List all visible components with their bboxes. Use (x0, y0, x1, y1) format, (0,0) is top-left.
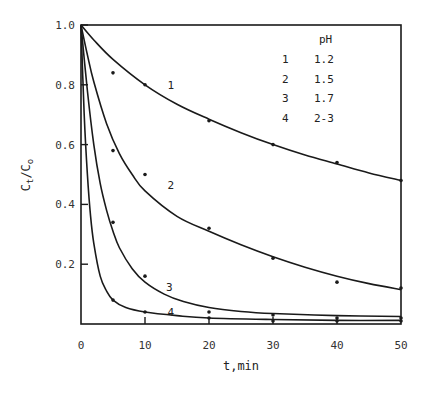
x-tick-label: 40 (330, 339, 343, 352)
data-point (207, 316, 211, 320)
series-curve-2 (81, 25, 401, 290)
data-point (335, 161, 339, 165)
legend-ph-value: 2-3 (314, 112, 334, 125)
data-point (111, 149, 115, 153)
curve-labels: 1234 (166, 79, 174, 319)
data-point (207, 310, 211, 314)
legend: pH 11.221.531.742-3 (282, 33, 334, 125)
legend-ph-value: 1.5 (314, 73, 334, 86)
legend-header: pH (319, 33, 332, 46)
x-axis-ticks: 01020304050 (78, 317, 408, 352)
curve-label-3: 3 (166, 281, 173, 294)
data-point (271, 319, 275, 323)
data-point (111, 71, 115, 75)
data-point (143, 310, 147, 314)
data-point (335, 280, 339, 284)
y-axis-title: Ct/Co (19, 159, 35, 192)
data-point (143, 274, 147, 278)
y-tick-label: 0.8 (55, 79, 75, 92)
data-point (399, 179, 403, 183)
data-point (399, 286, 403, 290)
series-curves (81, 25, 401, 320)
y-tick-label: 0.2 (55, 258, 75, 271)
x-tick-label: 0 (78, 339, 85, 352)
series-curve-1 (81, 25, 401, 180)
x-axis-title: t,min (223, 359, 259, 373)
data-point (143, 173, 147, 177)
legend-id: 3 (282, 92, 289, 105)
x-tick-label: 20 (202, 339, 215, 352)
curve-label-4: 4 (167, 306, 174, 319)
series-curve-4 (81, 25, 401, 320)
y-tick-label: 0.6 (55, 139, 75, 152)
legend-id: 1 (282, 53, 289, 66)
data-point (399, 319, 403, 323)
curve-label-2: 2 (167, 179, 174, 192)
data-point (207, 227, 211, 231)
data-point (111, 221, 115, 225)
legend-ph-value: 1.7 (314, 92, 334, 105)
data-point (207, 119, 211, 123)
legend-ph-value: 1.2 (314, 53, 334, 66)
data-point (271, 143, 275, 147)
data-point (143, 83, 147, 87)
svg-text:Ct/Co: Ct/Co (19, 159, 35, 192)
curve-label-1: 1 (167, 79, 174, 92)
x-tick-label: 10 (138, 339, 151, 352)
y-axis-ticks: 1.00.80.60.40.2 (55, 19, 88, 271)
x-tick-label: 50 (394, 339, 407, 352)
data-point (271, 256, 275, 260)
legend-id: 2 (282, 73, 289, 86)
legend-id: 4 (282, 112, 289, 125)
data-points (111, 71, 403, 323)
line-chart: 1.00.80.60.40.2 01020304050 1234 pH 11.2… (0, 0, 425, 394)
data-point (271, 313, 275, 317)
plot-frame (81, 25, 401, 324)
data-point (111, 298, 115, 302)
y-tick-label: 1.0 (55, 19, 75, 32)
data-point (335, 319, 339, 323)
y-tick-label: 0.4 (55, 198, 75, 211)
x-tick-label: 30 (266, 339, 279, 352)
